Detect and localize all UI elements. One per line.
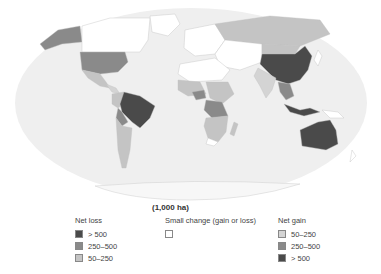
legend-item: > 500	[278, 252, 320, 264]
legend-item: 50–250	[278, 228, 320, 240]
legend-label: 50–250	[88, 254, 113, 263]
legend-label: 50–250	[291, 230, 316, 239]
legend-net-gain-title: Net gain	[278, 216, 320, 225]
legend-label: 250–500	[291, 242, 320, 251]
swatch-loss-50-250	[75, 254, 83, 262]
region-new-zealand	[350, 150, 356, 162]
swatch-loss-gt-500	[75, 230, 83, 238]
legend-item: 250–500	[75, 240, 117, 252]
legend-item: 250–500	[278, 240, 320, 252]
region-antarctica	[95, 181, 300, 200]
legend-small-change-title: Small change (gain or loss)	[165, 216, 256, 225]
swatch-gain-250-500	[278, 242, 286, 250]
swatch-gain-50-250	[278, 230, 286, 238]
legend-item: 50–250	[75, 252, 117, 264]
swatch-small-change	[165, 230, 173, 238]
legend-label: > 500	[88, 230, 107, 239]
legend-label: > 500	[291, 254, 310, 263]
legend-small-change: Small change (gain or loss)	[165, 216, 256, 240]
legend-net-loss-title: Net loss	[75, 216, 117, 225]
region-canada	[82, 18, 150, 52]
legend-item	[165, 228, 256, 240]
legend-label: 250–500	[88, 242, 117, 251]
region-mongolia	[262, 44, 300, 54]
swatch-loss-250-500	[75, 242, 83, 250]
unit-label: (1,000 ha)	[152, 203, 189, 212]
swatch-gain-gt-500	[278, 254, 286, 262]
legend-net-loss: Net loss > 500 250–500 50–250	[75, 216, 117, 264]
legend-net-gain: Net gain 50–250 250–500 > 500	[278, 216, 320, 264]
legend-item: > 500	[75, 228, 117, 240]
world-map	[0, 0, 381, 205]
